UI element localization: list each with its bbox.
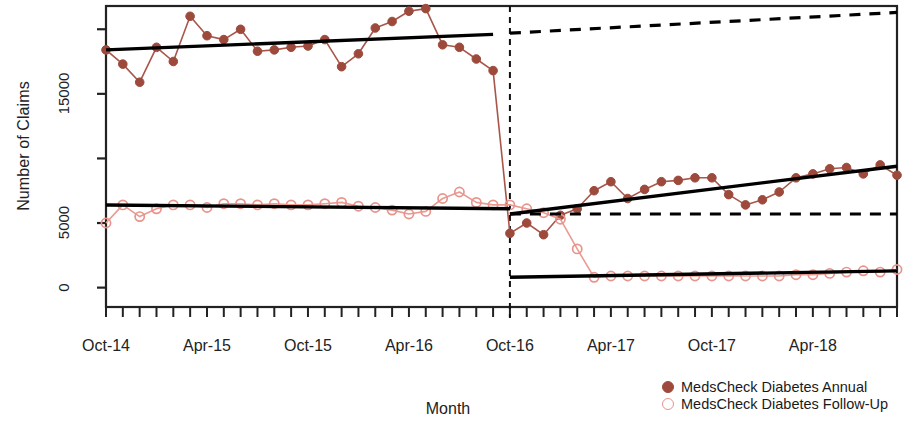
followup-data-point bbox=[556, 215, 565, 224]
annual-data-point bbox=[539, 230, 548, 239]
annual-data-point bbox=[405, 7, 414, 16]
annual-data-point bbox=[371, 24, 380, 33]
annual-data-point bbox=[270, 46, 279, 55]
followup-data-point bbox=[101, 218, 110, 227]
annual-data-point bbox=[607, 177, 616, 186]
annual-data-point bbox=[657, 177, 666, 186]
annual-data-point bbox=[472, 55, 481, 64]
annual-data-point bbox=[893, 171, 902, 180]
annual-data-point bbox=[119, 60, 128, 69]
annual-data-point bbox=[220, 35, 229, 44]
followup-pre-fit bbox=[106, 205, 510, 209]
legend-item: MedsCheck Diabetes Annual bbox=[662, 378, 888, 395]
annual-data-point bbox=[758, 196, 767, 205]
legend-label: MedsCheck Diabetes Follow-Up bbox=[681, 396, 888, 412]
chart-legend: MedsCheck Diabetes AnnualMedsCheck Diabe… bbox=[662, 378, 888, 412]
annual-data-point bbox=[506, 229, 515, 238]
annual-data-point bbox=[724, 190, 733, 199]
annual-data-point bbox=[708, 174, 717, 183]
annual-data-point bbox=[590, 186, 599, 195]
legend-item: MedsCheck Diabetes Follow-Up bbox=[662, 395, 888, 412]
annual-data-point bbox=[741, 201, 750, 210]
followup-data-point bbox=[455, 187, 464, 196]
legend-open-circle-icon bbox=[662, 398, 674, 410]
annual-data-point bbox=[253, 47, 262, 56]
annual-data-point bbox=[236, 25, 245, 34]
annual-data-point bbox=[455, 43, 464, 52]
annual-data-point bbox=[775, 188, 784, 197]
annual-data-point bbox=[186, 12, 195, 21]
annual-data-point bbox=[337, 62, 346, 71]
followup-data-point bbox=[438, 194, 447, 203]
annual-pre-fit bbox=[106, 34, 493, 50]
annual-data-point bbox=[422, 4, 431, 13]
annual-counterfactual bbox=[510, 12, 897, 33]
annual-data-point bbox=[203, 31, 212, 40]
followup-data-point bbox=[573, 244, 582, 253]
chart-figure: Number of Claims Month 0500015000 Oct-14… bbox=[0, 0, 908, 430]
legend-filled-circle-icon bbox=[662, 381, 674, 393]
annual-data-point bbox=[489, 66, 498, 75]
annual-post-fit bbox=[510, 166, 897, 214]
annual-data-point bbox=[691, 174, 700, 183]
annual-data-point bbox=[388, 17, 397, 26]
annual-data-point bbox=[169, 57, 178, 66]
followup-data-point bbox=[404, 209, 413, 218]
plot-area bbox=[0, 0, 908, 430]
legend-label: MedsCheck Diabetes Annual bbox=[681, 379, 867, 395]
annual-data-point bbox=[674, 176, 683, 185]
annual-data-point bbox=[825, 165, 834, 174]
annual-data-point bbox=[640, 185, 649, 194]
annual-data-point bbox=[522, 219, 531, 228]
followup-data-point bbox=[472, 198, 481, 207]
annual-data-point bbox=[354, 50, 363, 59]
annual-data-point bbox=[135, 78, 144, 87]
annual-data-point bbox=[438, 41, 447, 50]
followup-data-point bbox=[135, 212, 144, 221]
